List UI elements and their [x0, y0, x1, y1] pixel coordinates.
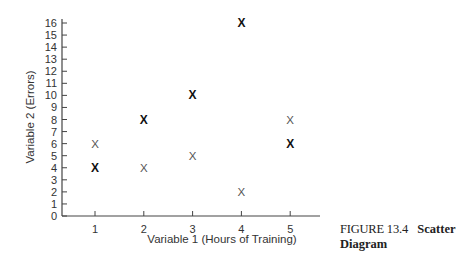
data-point-bold: X — [91, 161, 99, 175]
y-tick-label: 5 — [51, 150, 57, 162]
y-tick-label: 6 — [51, 138, 57, 150]
y-tick-label: 16 — [45, 17, 57, 29]
axes: 01234567891011121314151612345 — [45, 17, 320, 235]
x-tick-label: 1 — [92, 223, 98, 235]
data-point-bold: X — [189, 88, 197, 102]
y-tick-label: 9 — [51, 101, 57, 113]
figure-caption: FIGURE 13.4 Scatter Diagram — [340, 222, 470, 252]
y-tick-label: 13 — [45, 53, 57, 65]
figure-label: FIGURE 13.4 — [340, 222, 408, 236]
data-point-light: X — [140, 162, 148, 174]
y-tick-label: 2 — [51, 186, 57, 198]
y-tick-label: 7 — [51, 126, 57, 138]
y-tick-label: 15 — [45, 29, 57, 41]
y-tick-label: 4 — [51, 162, 57, 174]
figure-title-line1: Scatter — [417, 222, 455, 236]
y-tick-label: 14 — [45, 41, 57, 53]
x-tick-label: 2 — [141, 223, 147, 235]
x-axis-title: Variable 1 (Hours of Training) — [147, 233, 297, 245]
data-point-light: X — [91, 138, 99, 150]
figure-title-line2: Diagram — [340, 237, 387, 251]
data-point-bold: X — [140, 113, 148, 127]
data-point-bold: X — [286, 137, 294, 151]
data-point-light: X — [189, 150, 197, 162]
y-tick-label: 12 — [45, 65, 57, 77]
y-tick-label: 8 — [51, 114, 57, 126]
data-point-bold: X — [237, 16, 245, 30]
y-tick-label: 11 — [46, 77, 57, 89]
y-axis-title: Variable 2 (Errors) — [24, 70, 36, 163]
data-point-light: X — [286, 114, 294, 126]
data-point-light: X — [238, 186, 246, 198]
data-points: XXXXXXXXXX — [91, 16, 294, 198]
y-tick-label: 1 — [51, 198, 57, 210]
y-tick-label: 0 — [51, 210, 57, 222]
y-tick-label: 3 — [51, 174, 57, 186]
y-tick-label: 10 — [45, 89, 57, 101]
